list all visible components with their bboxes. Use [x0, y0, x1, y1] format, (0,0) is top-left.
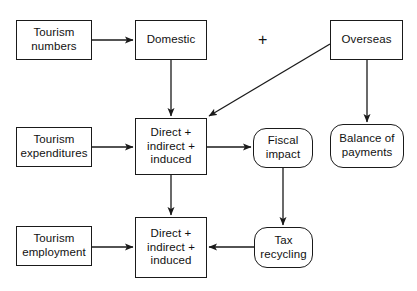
node-balance-of-payments[interactable]: Balance of payments: [330, 124, 404, 168]
node-direct-indirect-induced-employment[interactable]: Direct + indirect + induced: [135, 217, 207, 278]
node-label: Domestic: [144, 33, 199, 47]
node-label: Direct + indirect + induced: [144, 126, 198, 167]
node-tourism-employment[interactable]: Tourism employment: [16, 226, 92, 266]
node-tax-recycling[interactable]: Tax recycling: [254, 227, 313, 268]
edge-overseas-to-expenditure-impact: [209, 44, 330, 116]
node-label: Overseas: [338, 33, 394, 47]
node-tourism-numbers[interactable]: Tourism numbers: [16, 20, 92, 60]
node-label: Tourism expenditures: [17, 133, 90, 160]
node-direct-indirect-induced-expenditure[interactable]: Direct + indirect + induced: [135, 118, 207, 175]
node-label: Balance of payments: [336, 132, 397, 159]
node-tourism-expenditures[interactable]: Tourism expenditures: [16, 127, 92, 167]
node-overseas[interactable]: Overseas: [330, 20, 403, 60]
node-label: Fiscal impact: [263, 134, 303, 161]
diagram-canvas: Tourism numbers Domestic Overseas Touris…: [0, 0, 417, 291]
plus-operator: +: [258, 32, 267, 48]
node-domestic[interactable]: Domestic: [135, 20, 207, 60]
node-label: Tourism numbers: [28, 26, 79, 53]
node-fiscal-impact[interactable]: Fiscal impact: [253, 128, 313, 168]
node-label: Direct + indirect + induced: [144, 227, 198, 268]
node-label: Tax recycling: [257, 234, 309, 261]
node-label: Tourism employment: [19, 232, 89, 259]
